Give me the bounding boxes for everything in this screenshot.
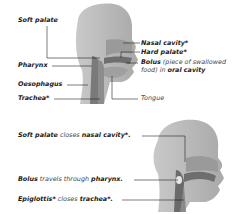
label-pharynx: Pharynx [18, 62, 48, 70]
label-oesophagus: Oesophagus [18, 81, 62, 89]
caption-closes-1: closes [60, 131, 80, 139]
head-diagram-1 [76, 4, 138, 104]
caption-pharynx: pharynx. [91, 175, 123, 183]
label-oral-cavity: oral cavity [168, 66, 206, 74]
label-nasal-cavity: Nasal cavity* [141, 40, 188, 48]
label-bolus-bold: Bolus [141, 58, 161, 66]
caption-trachea: trachea*. [80, 195, 113, 203]
caption-closes-2: closes [58, 195, 78, 203]
caption-bolus-term: Bolus [18, 175, 38, 183]
caption-epiglottis: Epiglottis* closes trachea*. [18, 196, 113, 204]
label-tongue: Tongue [141, 95, 164, 103]
label-trachea: Trachea* [18, 95, 49, 103]
label-hard-palate: Hard palate* [141, 49, 187, 57]
caption-soft-palate: Soft palate closes nasal cavity*. [18, 132, 131, 140]
caption-travels: travels through [40, 175, 89, 183]
caption-epiglottis-term: Epiglottis* [18, 195, 56, 203]
label-soft-palate: Soft palate [18, 17, 58, 25]
label-bolus-desc2: food) in [141, 66, 165, 74]
label-bolus-desc1: (piece of swallowed [163, 58, 226, 66]
caption-soft-palate-term: Soft palate [18, 131, 58, 139]
caption-nasal-cavity: nasal cavity*. [82, 131, 131, 139]
caption-bolus: Bolus travels through pharynx. [18, 176, 123, 184]
label-bolus-line2: food) in oral cavity [141, 67, 205, 75]
head-diagram-2 [154, 120, 225, 212]
